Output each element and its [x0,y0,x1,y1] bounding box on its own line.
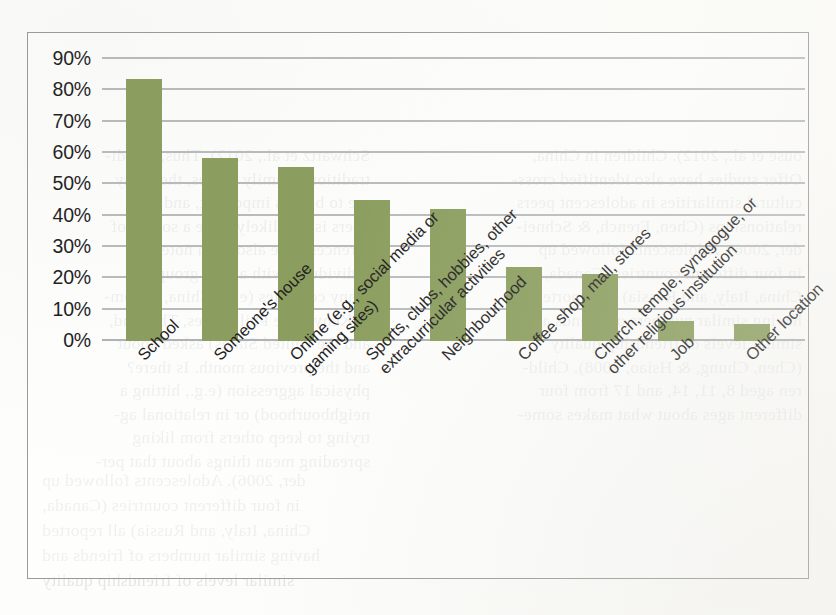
y-tick-label-10pct: 10% [27,297,91,320]
bar-1 [126,79,162,341]
y-tick-label-80pct: 80% [27,78,91,101]
y-tick-label-20pct: 20% [27,266,91,289]
gridline-70 [102,120,805,122]
x-axis-category-labels: SchoolSomeone's houseOnline (e.g., socia… [28,347,808,577]
y-tick-label-70pct: 70% [27,109,91,132]
gridline-80 [102,88,805,90]
y-tick-label-60pct: 60% [27,141,91,164]
bar-chart-figure: 90%80%70%60%50%40%30%20%10%0% SchoolSome… [27,32,809,579]
y-tick-label-40pct: 40% [27,203,91,226]
gridline-90 [102,57,805,59]
y-tick-label-50pct: 50% [27,172,91,195]
y-tick-label-30pct: 30% [27,235,91,258]
bar-3 [278,167,314,341]
gridline-60 [102,151,805,153]
y-tick-label-90pct: 90% [27,47,91,70]
bar-2 [202,158,238,341]
